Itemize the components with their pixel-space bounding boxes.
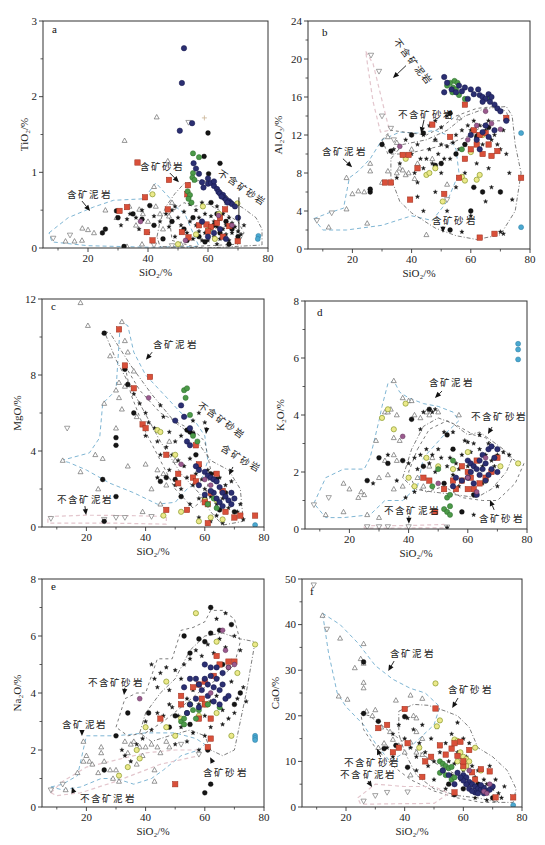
data-point bbox=[206, 131, 211, 136]
data-point bbox=[220, 670, 225, 675]
data-point bbox=[427, 407, 432, 412]
data-point bbox=[202, 662, 207, 667]
data-point bbox=[190, 685, 195, 690]
data-point bbox=[238, 691, 243, 696]
data-point bbox=[184, 386, 189, 391]
data-point bbox=[480, 151, 485, 156]
data-point bbox=[409, 417, 414, 422]
data-point bbox=[448, 228, 453, 233]
data-point bbox=[450, 458, 455, 463]
data-point bbox=[474, 137, 479, 142]
data-point bbox=[229, 502, 234, 507]
data-point bbox=[181, 46, 186, 51]
data-point bbox=[202, 790, 207, 795]
data-point bbox=[427, 170, 432, 175]
data-point bbox=[453, 90, 458, 95]
annotation-label: 含矿泥岩 bbox=[62, 719, 107, 730]
data-point bbox=[202, 154, 207, 159]
data-point bbox=[478, 782, 483, 787]
data-point bbox=[179, 462, 184, 467]
x-tick-label: 20 bbox=[83, 252, 95, 264]
data-point bbox=[232, 515, 237, 520]
annotation-label: 含矿砂岩 bbox=[479, 513, 524, 524]
data-point bbox=[253, 738, 258, 743]
data-point bbox=[173, 452, 178, 457]
data-point bbox=[197, 637, 202, 642]
annotation-label: 含矿泥岩 bbox=[429, 377, 474, 388]
data-point bbox=[199, 180, 204, 185]
x-axis-title: SiO₂/% bbox=[139, 266, 172, 278]
data-point bbox=[368, 187, 373, 192]
data-point bbox=[446, 782, 451, 787]
data-point bbox=[471, 128, 476, 133]
data-point bbox=[125, 765, 130, 770]
data-point bbox=[456, 175, 461, 180]
data-point bbox=[187, 426, 192, 431]
data-point bbox=[125, 382, 130, 387]
annotation-label: 不含矿砂岩 bbox=[471, 411, 527, 422]
data-point bbox=[170, 219, 175, 224]
y-axis-title: CaO/% bbox=[269, 677, 281, 709]
x-tick-label: 20 bbox=[81, 811, 93, 823]
data-point bbox=[451, 447, 456, 452]
data-point bbox=[232, 662, 237, 667]
data-point bbox=[164, 679, 169, 684]
x-axis-title: SiO₂/% bbox=[402, 267, 435, 279]
data-point bbox=[137, 696, 142, 701]
x-tick-label: 20 bbox=[347, 253, 359, 265]
data-point bbox=[484, 791, 489, 796]
data-point bbox=[220, 682, 225, 687]
data-point bbox=[475, 791, 480, 796]
data-point bbox=[131, 386, 136, 391]
data-point bbox=[480, 99, 485, 104]
data-point bbox=[480, 190, 485, 195]
data-point bbox=[202, 676, 207, 681]
data-point bbox=[454, 152, 459, 157]
data-point bbox=[382, 180, 387, 185]
data-point bbox=[455, 759, 460, 764]
data-point bbox=[423, 759, 428, 764]
data-point bbox=[211, 179, 216, 184]
data-point bbox=[477, 472, 482, 477]
data-point bbox=[146, 395, 151, 400]
x-tick-label: 20 bbox=[341, 811, 353, 823]
data-point bbox=[483, 478, 488, 483]
data-point bbox=[199, 696, 204, 701]
data-point bbox=[476, 87, 481, 92]
data-point bbox=[385, 407, 390, 412]
data-point bbox=[480, 129, 485, 134]
data-point bbox=[460, 510, 465, 515]
data-point bbox=[187, 702, 192, 707]
data-point bbox=[486, 472, 491, 477]
data-point bbox=[193, 696, 198, 701]
data-point bbox=[379, 415, 384, 420]
data-point bbox=[403, 401, 408, 406]
data-point bbox=[214, 665, 219, 670]
y-tick-label: 6 bbox=[294, 352, 300, 364]
data-point bbox=[218, 161, 223, 166]
data-point bbox=[202, 492, 207, 497]
data-point bbox=[116, 327, 121, 332]
annotation-label: 含矿泥岩 bbox=[390, 648, 435, 659]
data-point bbox=[440, 199, 445, 204]
y-tick-label: 8 bbox=[31, 369, 37, 381]
data-point bbox=[206, 171, 211, 176]
data-point bbox=[452, 790, 457, 795]
data-point bbox=[477, 481, 482, 486]
data-point bbox=[100, 231, 105, 236]
data-point bbox=[412, 484, 417, 489]
data-point bbox=[449, 764, 454, 769]
data-point bbox=[474, 177, 479, 182]
y-tick-label: 8 bbox=[294, 295, 300, 307]
data-point bbox=[459, 147, 464, 152]
x-tick-label: 60 bbox=[199, 811, 211, 823]
data-point bbox=[196, 155, 201, 160]
data-point bbox=[465, 475, 470, 480]
data-point bbox=[487, 782, 492, 787]
data-point bbox=[184, 710, 189, 715]
data-point bbox=[492, 455, 497, 460]
y-tick-label: 40 bbox=[285, 618, 297, 630]
data-point bbox=[459, 478, 464, 483]
data-point bbox=[220, 503, 225, 508]
data-point bbox=[147, 203, 152, 208]
